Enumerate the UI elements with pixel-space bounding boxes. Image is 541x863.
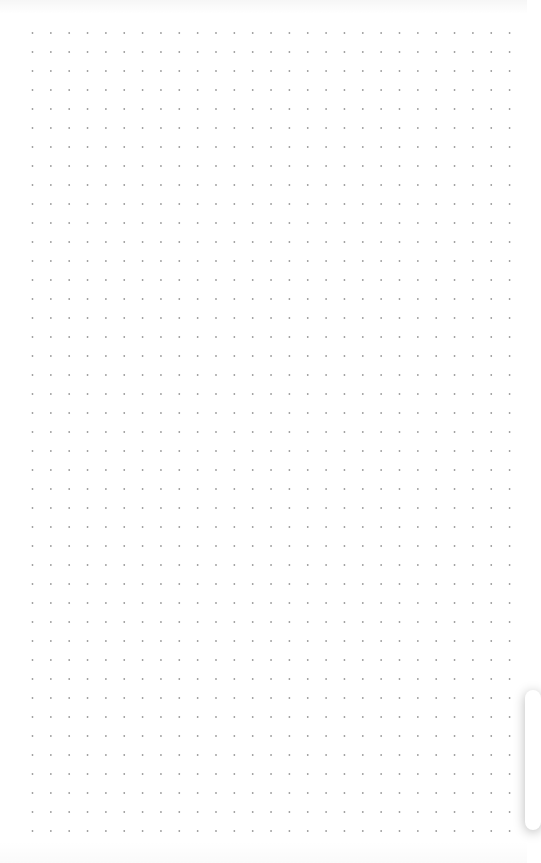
offscreen-side-toolbar[interactable] xyxy=(525,690,541,830)
